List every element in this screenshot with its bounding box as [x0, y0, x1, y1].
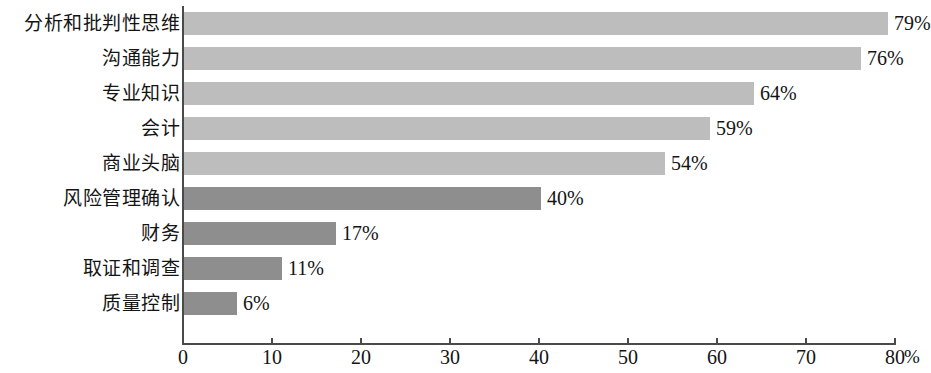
bar-row: 商业头脑 54%: [0, 146, 929, 181]
x-axis-tick-label: 60: [707, 346, 727, 369]
x-axis-tick: [805, 338, 807, 345]
x-axis-tick-label: 10: [262, 346, 282, 369]
bar: [184, 12, 888, 35]
bar-row: 质量控制 6%: [0, 286, 929, 321]
bar: [184, 82, 754, 105]
bar: [184, 152, 665, 175]
x-axis-tick: [449, 338, 451, 345]
x-axis-tick: [716, 338, 718, 345]
x-axis-tick: [627, 338, 629, 345]
bar: [184, 117, 710, 140]
category-label: 会计: [141, 111, 180, 146]
bar: [184, 222, 336, 245]
bar-row: 财务 17%: [0, 216, 929, 251]
bar-value-label: 54%: [665, 146, 708, 181]
bar-value-label: 6%: [237, 286, 270, 321]
x-axis-tick: [182, 338, 184, 345]
bar: [184, 187, 541, 210]
bar-row: 沟通能力 76%: [0, 41, 929, 76]
bar-value-label: 76%: [861, 41, 904, 76]
bar-value-label: 79%: [888, 6, 931, 41]
x-axis-unit-label: %: [904, 346, 920, 368]
bar-row: 风险管理确认 40%: [0, 181, 929, 216]
bar-value-label: 17%: [336, 216, 379, 251]
bar-row: 取证和调查 11%: [0, 251, 929, 286]
x-axis-tick: [538, 338, 540, 345]
category-label: 风险管理确认: [63, 181, 180, 216]
x-axis-tick-label: 70: [796, 346, 816, 369]
bar: [184, 292, 237, 315]
bar: [184, 47, 861, 70]
x-axis-tick: [894, 338, 896, 345]
x-axis-tick-label: 30: [440, 346, 460, 369]
bar: [184, 257, 282, 280]
bar-value-label: 40%: [541, 181, 584, 216]
x-axis-tick-label: 80: [885, 346, 905, 369]
x-axis-tick-label: 20: [351, 346, 371, 369]
category-label: 商业头脑: [102, 146, 180, 181]
category-label: 分析和批判性思维: [24, 6, 180, 41]
bar-value-label: 11%: [282, 251, 324, 286]
x-axis-tick-label: 40: [529, 346, 549, 369]
x-axis-tick: [360, 338, 362, 345]
bar-row: 会计 59%: [0, 111, 929, 146]
bar-value-label: 59%: [710, 111, 753, 146]
category-label: 沟通能力: [102, 41, 180, 76]
x-axis-tick-label: 0: [178, 346, 188, 369]
category-label: 财务: [141, 216, 180, 251]
category-label: 质量控制: [102, 286, 180, 321]
bar-row: 分析和批判性思维 79%: [0, 6, 929, 41]
x-axis-tick: [271, 338, 273, 345]
x-axis-tick-label: 50: [618, 346, 638, 369]
category-label: 取证和调查: [83, 251, 181, 286]
category-label: 专业知识: [102, 76, 180, 111]
bar-value-label: 64%: [754, 76, 797, 111]
bar-row: 专业知识 64%: [0, 76, 929, 111]
